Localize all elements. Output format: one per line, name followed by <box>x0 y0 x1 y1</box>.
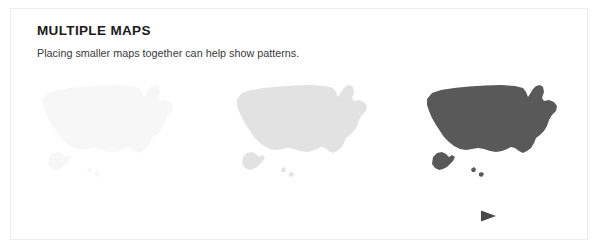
figure-subtitle: Placing smaller maps together can help s… <box>37 46 557 60</box>
united-states-map-light-shape <box>237 85 367 177</box>
arrow-right-icon <box>481 211 496 222</box>
figure-card: MULTIPLE MAPS Placing smaller maps toget… <box>10 8 588 240</box>
united-states-map-dark <box>423 77 565 192</box>
heading-block: MULTIPLE MAPS Placing smaller maps toget… <box>37 23 557 60</box>
united-states-map-dark-shape <box>427 85 557 177</box>
united-states-map-lightest <box>39 77 181 192</box>
united-states-map-lightest-shape <box>43 85 173 177</box>
page-title: MULTIPLE MAPS <box>37 23 557 39</box>
maps-row <box>11 77 589 192</box>
united-states-map-light <box>233 77 375 192</box>
arrow-row <box>11 201 589 229</box>
